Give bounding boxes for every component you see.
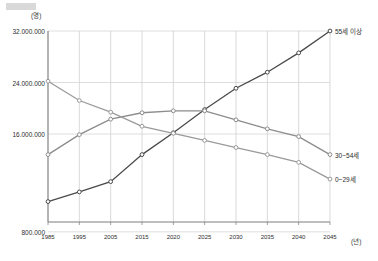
- data-point-marker: [234, 86, 238, 90]
- data-point-marker: [328, 153, 332, 157]
- series-line: [48, 111, 330, 155]
- series-line: [48, 81, 330, 179]
- data-point-marker: [234, 118, 238, 122]
- data-point-marker: [171, 131, 175, 135]
- data-point-marker: [46, 79, 50, 83]
- data-point-marker: [328, 29, 332, 33]
- plot-area: [0, 0, 378, 261]
- data-point-marker: [328, 177, 332, 181]
- data-point-marker: [109, 180, 113, 184]
- series-line: [48, 31, 330, 202]
- data-point-marker: [265, 70, 269, 74]
- data-point-marker: [203, 139, 207, 143]
- data-point-marker: [171, 109, 175, 113]
- data-point-marker: [77, 99, 81, 103]
- line-chart: (명) (년) 32.000.00024.000.00016.000.00080…: [0, 0, 378, 261]
- data-point-marker: [297, 160, 301, 164]
- data-point-marker: [46, 200, 50, 204]
- data-point-marker: [77, 133, 81, 137]
- data-point-marker: [46, 153, 50, 157]
- data-point-marker: [140, 153, 144, 157]
- data-point-marker: [140, 111, 144, 115]
- data-point-marker: [297, 51, 301, 55]
- data-point-marker: [203, 109, 207, 113]
- data-point-marker: [265, 127, 269, 131]
- data-point-marker: [109, 110, 113, 114]
- data-point-marker: [297, 135, 301, 139]
- data-point-marker: [77, 190, 81, 194]
- data-point-marker: [140, 124, 144, 128]
- data-point-marker: [265, 153, 269, 157]
- data-point-marker: [234, 146, 238, 150]
- data-point-marker: [109, 117, 113, 121]
